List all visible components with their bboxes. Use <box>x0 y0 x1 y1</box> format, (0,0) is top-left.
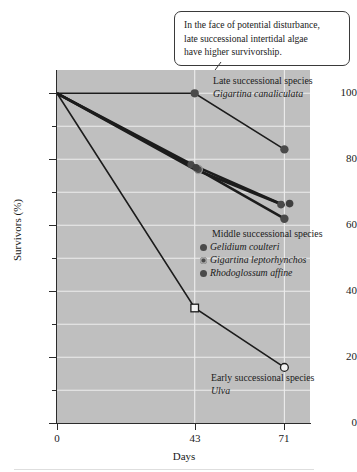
x-axis-line <box>56 423 311 424</box>
series-line-gigartina-canaliculata <box>57 93 284 149</box>
series-line-rhodoglossum-affine <box>57 93 284 218</box>
annotation-early-species: Ulva <box>211 385 314 398</box>
y-axis-line <box>56 70 57 424</box>
callout-line-1: In the face of potential disturbance, <box>184 18 341 32</box>
callout-line-2: late successional intertidal algae <box>184 32 341 46</box>
y-tick-20 <box>49 357 57 358</box>
datapoint-rhodoglossum-affine-d71 <box>280 215 288 223</box>
legend-label: Gelidium coulteri <box>210 241 279 254</box>
y-tick-label-100: 100 <box>313 87 357 98</box>
series-line-gelidium-coulteri <box>57 93 284 205</box>
marker-solid-circle-icon <box>200 270 207 277</box>
annotation-late-title: Late successional species <box>213 75 313 88</box>
legend-label: Rhodoglossum affine <box>210 267 292 280</box>
x-axis-label: Days <box>124 450 244 462</box>
callout-box: In the face of potential disturbance, la… <box>174 11 350 66</box>
annotation-early-title: Early successional species <box>211 372 314 385</box>
datapoint-ulva-d71 <box>281 364 289 372</box>
bottom-divider <box>14 469 314 470</box>
legend-title: Middle successional species <box>200 228 322 241</box>
y-minor-tick-70 <box>52 192 57 193</box>
legend-item-gelidium-coulteri: Gelidium coulteri <box>200 241 322 254</box>
y-tick-0 <box>49 423 57 424</box>
chart-plot-area: Late successional species Gigartina cana… <box>57 70 310 423</box>
x-tick-label-71: 71 <box>264 433 304 444</box>
y-tick-label-80: 80 <box>313 153 357 164</box>
legend-item-gigartina-leptorhynchos: Gigartina leptorhynchos <box>200 254 322 267</box>
x-tick-0 <box>57 423 58 430</box>
datapoint-gigartina-canaliculata-d71 <box>280 145 288 153</box>
y-tick-40 <box>49 291 57 292</box>
y-tick-label-60: 60 <box>313 219 357 230</box>
y-tick-label-20: 20 <box>313 351 357 362</box>
callout-line-3: have higher survivorship. <box>184 45 341 59</box>
y-tick-label-40: 40 <box>313 285 357 296</box>
y-axis-label: Survivors (%) <box>11 170 23 290</box>
legend-middle-successional: Middle successional species Gelidium cou… <box>200 228 322 280</box>
marker-solid-circle-icon <box>200 244 207 251</box>
legend-item-rhodoglossum-affine: Rhodoglossum affine <box>200 267 322 280</box>
datapoint-gigartina-leptorhynchos-d71 <box>286 200 294 208</box>
y-tick-60 <box>49 225 57 226</box>
datapoint-gigartina-canaliculata-d43 <box>191 89 199 97</box>
annotation-late-successional: Late successional species Gigartina cana… <box>213 75 313 101</box>
annotation-late-species: Gigartina canaliculata <box>213 88 313 101</box>
y-tick-100 <box>49 93 57 94</box>
y-minor-tick-50 <box>52 258 57 259</box>
x-tick-71 <box>284 423 285 430</box>
annotation-early-successional: Early successional species Ulva <box>211 372 314 398</box>
y-minor-tick-30 <box>52 324 57 325</box>
x-tick-label-43: 43 <box>175 433 215 444</box>
y-minor-tick-10 <box>52 390 57 391</box>
datapoint-gelidium-coulteri-d71 <box>277 201 285 209</box>
datapoint-ulva-d43 <box>191 304 199 312</box>
x-tick-43 <box>195 423 196 430</box>
y-tick-80 <box>49 159 57 160</box>
y-minor-tick-90 <box>52 126 57 127</box>
datapoint-rhodoglossum-affine-d43 <box>192 164 199 171</box>
marker-ring-circle-icon <box>200 257 207 264</box>
y-tick-label-0: 0 <box>313 417 357 428</box>
x-tick-label-0: 0 <box>37 433 77 444</box>
legend-label: Gigartina leptorhynchos <box>210 254 306 267</box>
